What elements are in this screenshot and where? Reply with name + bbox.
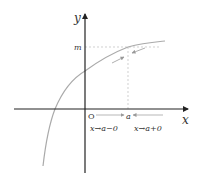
a-label: a: [126, 112, 131, 121]
origin-label: O: [88, 112, 95, 121]
limit-diagram: y x O m a x→a−0 x→a+0: [0, 0, 200, 184]
curve-right-approach-arrow: [132, 48, 145, 53]
y-axis-label: y: [73, 11, 81, 25]
x-axis-label: x: [182, 113, 189, 127]
function-curve: [43, 41, 165, 166]
left-limit-label: x→a−0: [90, 124, 118, 133]
m-label: m: [74, 43, 82, 52]
curve-left-approach-arrow: [112, 57, 124, 63]
diagram-canvas: y x O m a x→a−0 x→a+0: [0, 0, 200, 184]
right-limit-label: x→a+0: [134, 124, 162, 133]
